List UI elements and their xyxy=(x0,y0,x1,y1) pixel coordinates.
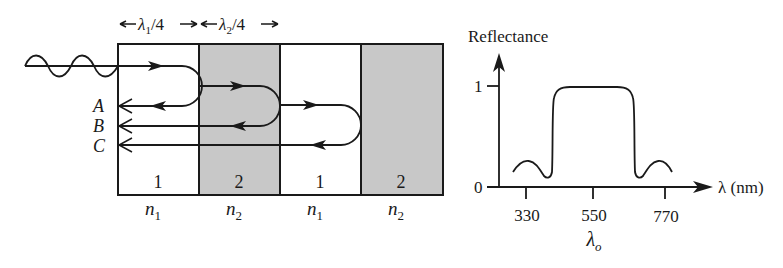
spacing-label-1: λ1/4 xyxy=(120,15,197,36)
diagram-canvas: λ1/4 λ2/4 A B C 1 2 1 2 n1 n2 n1 n2 Refl… xyxy=(0,0,783,268)
refractive-index-label: n2 xyxy=(226,198,242,223)
lambda-symbol: λ xyxy=(218,15,226,34)
lambda-symbol: λ xyxy=(137,15,145,34)
refractive-index-label: n1 xyxy=(307,198,323,223)
ray-label-c: C xyxy=(93,136,106,156)
x-axis-label: λ (nm) xyxy=(718,178,764,197)
refractive-index-label: n2 xyxy=(388,198,404,223)
svg-text:λ1/4: λ1/4 xyxy=(137,15,165,36)
spacing-label-2: λ2/4 xyxy=(201,15,278,36)
x-tick-label-770: 770 xyxy=(653,207,679,226)
refractive-index-label: n1 xyxy=(145,198,161,223)
y-axis-label: Reflectance xyxy=(468,27,548,46)
layer-number: 2 xyxy=(235,172,244,192)
ray-label-b: B xyxy=(93,116,104,136)
x-tick-label-550: 550 xyxy=(581,206,607,225)
layer-number: 2 xyxy=(397,172,406,192)
y-tick-label-1: 1 xyxy=(474,77,483,96)
quarter-wave-labels: λ1/4 λ2/4 xyxy=(120,15,278,36)
reflectance-chart: Reflectance 1 0 λ (nm) 330 550 770 λo xyxy=(468,27,764,254)
layer-number: 1 xyxy=(316,172,325,192)
ray-label-a: A xyxy=(92,96,105,116)
center-wavelength-label: λo xyxy=(585,228,602,254)
x-tick-label-330: 330 xyxy=(514,206,540,225)
layer-number: 1 xyxy=(154,172,163,192)
y-tick-label-0: 0 xyxy=(474,178,483,197)
svg-text:λ2/4: λ2/4 xyxy=(218,15,246,36)
reflectance-curve xyxy=(513,87,672,178)
